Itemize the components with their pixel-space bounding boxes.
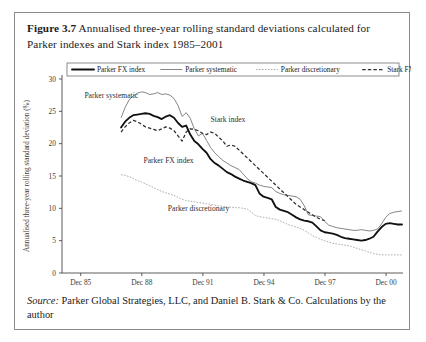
legend-label-parker-systematic: Parker systematic xyxy=(185,65,237,74)
series-line-parker-discretionary xyxy=(121,175,402,255)
y-axis-tick-label: 15 xyxy=(49,172,57,181)
x-axis-tick-label: Dec 85 xyxy=(70,278,91,287)
chart-annotation: Parker FX index xyxy=(143,156,193,165)
x-axis-tick-label: Dec 00 xyxy=(376,278,397,287)
x-axis-tick-label: Dec 88 xyxy=(131,278,152,287)
y-axis-tick-label: 10 xyxy=(49,204,57,213)
source-text: Parker Global Strategies, LLC, and Danie… xyxy=(27,295,386,320)
source-note: Source: Parker Global Strategies, LLC, a… xyxy=(27,294,401,322)
y-axis-title: Annualised three-year rolling standard d… xyxy=(23,99,31,251)
series-line-parker-fx-index xyxy=(121,113,402,240)
y-axis-tick-label: 5 xyxy=(52,236,56,245)
figure-caption: Figure 3.7 Annualised three-year rolling… xyxy=(27,21,399,52)
chart-svg: 051015202530Dec 85Dec 88Dec 91Dec 94Dec … xyxy=(15,61,411,291)
legend-label-stark-fx-index: Stark FX index xyxy=(387,65,411,74)
figure-number: Figure 3.7 xyxy=(27,22,76,34)
chart-annotation: Parker discretionary xyxy=(168,204,230,213)
chart-annotation: Stark index xyxy=(211,115,246,124)
y-axis-tick-label: 20 xyxy=(49,139,57,148)
figure-caption-text: Annualised three-year rolling standard d… xyxy=(27,22,370,50)
source-label: Source: xyxy=(27,295,59,306)
legend-label-parker-discretionary: Parker discretionary xyxy=(281,65,340,74)
y-axis-tick-label: 0 xyxy=(52,269,56,278)
x-axis-tick-label: Dec 91 xyxy=(192,278,213,287)
legend-label-parker-fx-index: Parker FX index xyxy=(97,65,146,74)
figure-container: Figure 3.7 Annualised three-year rolling… xyxy=(14,12,410,330)
y-axis-tick-label: 25 xyxy=(49,107,57,116)
chart-annotation: Parker systematic xyxy=(84,91,138,100)
x-axis-tick-label: Dec 97 xyxy=(314,278,335,287)
x-axis-tick-label: Dec 94 xyxy=(253,278,274,287)
chart-plot-area: 051015202530Dec 85Dec 88Dec 91Dec 94Dec … xyxy=(15,61,411,291)
y-axis-tick-label: 30 xyxy=(49,75,57,84)
